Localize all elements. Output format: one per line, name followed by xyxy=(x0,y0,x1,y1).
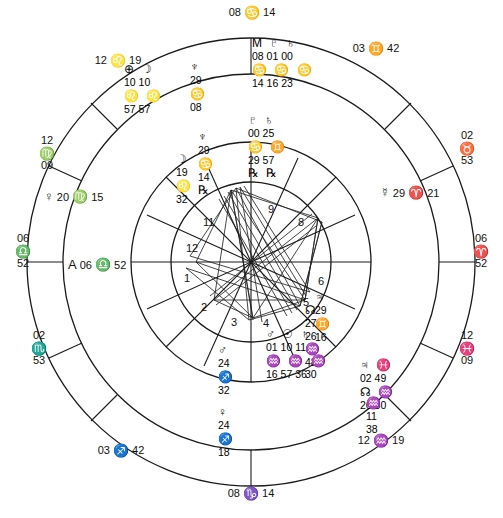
glyph-row: M ♇ ♄ xyxy=(252,36,314,50)
cusp-degree: 02 xyxy=(24,330,54,342)
cusp-label: 08 ♋ 14 xyxy=(222,6,282,20)
cusp-degree: 02 xyxy=(452,130,482,142)
mercury-icon: ☿ xyxy=(380,185,390,200)
value-row: 19 xyxy=(176,166,193,178)
moon-cluster: ☽19♌32 xyxy=(176,152,193,205)
cusp-label: 06 ♈ 52 xyxy=(466,233,496,270)
cusp-degree: 06 xyxy=(466,233,496,245)
planet-degree: 20 xyxy=(57,191,69,203)
glyph-row: ⊕ ☽ xyxy=(124,62,163,76)
glyph-row: ♋ ♊ xyxy=(248,140,287,154)
value-row: 29 57 xyxy=(248,154,287,166)
cusp-minute: 52 xyxy=(8,258,38,270)
cusp-degree: 12 xyxy=(30,135,64,147)
planet-sign-icon: ♍ xyxy=(72,189,88,204)
glyph-row: ♋ xyxy=(198,157,215,171)
glyph-row: ♆ xyxy=(190,60,207,74)
value-row: 11 xyxy=(366,410,383,422)
glyph-row: ♒ xyxy=(366,396,383,410)
planet-sign-icon: ♈ xyxy=(408,185,424,200)
value-row: 24 xyxy=(218,357,235,369)
value-row: 00 25 xyxy=(248,127,287,139)
mars-sagittarius-cluster: ♂24♐32 xyxy=(218,343,235,396)
cusp-sign-icon: ♎ xyxy=(8,245,38,259)
glyph-row: ♌ ♌ xyxy=(124,89,163,103)
planet-degree: 06 xyxy=(80,259,92,271)
house-number: 3 xyxy=(231,316,237,328)
planet-sign-icon: ♎ xyxy=(95,257,111,272)
cusp-label: 03 ♐ 42 xyxy=(91,444,151,458)
value-row: 24 xyxy=(218,419,235,431)
cusp-degree: 12 xyxy=(452,330,482,342)
glyph-row: ♀ xyxy=(218,405,235,419)
value-row: 32 xyxy=(176,193,193,205)
neptune-cluster: ♆29♋08 xyxy=(190,60,207,113)
cusp-minute: 19 xyxy=(392,434,404,446)
planet-label-venus: ♀ 20 ♍ 15 xyxy=(44,190,103,204)
value-row: 14 16 23 xyxy=(252,77,314,89)
value-row: 10 10 xyxy=(124,76,163,88)
pluto-saturn-cluster: ♇ ♄00 25♋ ♊29 57℞ ℞ xyxy=(248,113,287,180)
cusp-sign-icon: ♑ xyxy=(243,486,259,501)
value-row: 29 xyxy=(190,74,207,86)
cusp-sign-icon: ♋ xyxy=(244,5,260,20)
value-row: 01 10 11 xyxy=(266,341,328,353)
glyph-row: ♐ xyxy=(218,432,235,446)
cusp-label: 12 ♒ 19 xyxy=(351,434,411,448)
ascendant-icon: A xyxy=(68,257,77,272)
planet-minute: 21 xyxy=(427,187,439,199)
value-row: 38 xyxy=(366,423,383,435)
cusp-sign-icon: ♓ xyxy=(452,342,482,356)
aquarius-lower-cluster: ♒1138 xyxy=(366,396,383,435)
value-row: 29 xyxy=(198,144,215,156)
house-number: 12 xyxy=(186,242,198,254)
cusp-minute: 42 xyxy=(387,42,399,54)
glyph-row: ♋ ♋ ♋ xyxy=(252,63,314,77)
glyph-row: ℞ ℞ xyxy=(248,166,287,180)
glyph-row: ♐ xyxy=(218,370,235,384)
planet-minute: 15 xyxy=(91,191,103,203)
planet-degree: 29 xyxy=(393,187,405,199)
cusp-sign-icon: ♊ xyxy=(368,41,384,56)
planet-minute: 52 xyxy=(114,259,126,271)
cusp-minute: 53 xyxy=(452,155,482,167)
glyph-row: ☽ xyxy=(176,152,193,166)
value-row: 14 xyxy=(198,171,215,183)
sun-mars-cluster: ♂ ☉ ♄01 10 11♒ ♒ ♒16 57 36 xyxy=(266,327,328,380)
cusp-degree: 12 xyxy=(95,54,107,66)
glyph-row: ☊ xyxy=(305,303,322,317)
house-number: 6 xyxy=(318,275,324,287)
cusp-degree: 08 xyxy=(229,6,241,18)
cusp-degree: 03 xyxy=(353,42,365,54)
cusp-degree: 08 xyxy=(228,487,240,499)
value-row: 57 57 xyxy=(124,103,163,115)
glyph-row: ♇ ♄ xyxy=(248,113,287,127)
value-row: 08 01 00 xyxy=(252,50,314,62)
glyph-row: ♌ xyxy=(176,179,193,193)
cusp-minute: 09 xyxy=(30,160,64,172)
cusp-label: 02 ♉ 53 xyxy=(452,130,482,167)
cusp-minute: 14 xyxy=(262,487,274,499)
value-row: 16 57 36 xyxy=(266,368,328,380)
venus-sagittarius-cluster: ♀24♐18 xyxy=(218,405,235,458)
glyph-row: ℞ xyxy=(198,183,215,197)
glyph-row: ♒ ♒ ♒ xyxy=(266,354,328,368)
cusp-sign-icon: ♍ xyxy=(30,147,64,161)
cusp-minute: 14 xyxy=(263,6,275,18)
glyph-row: ♃ ♓ xyxy=(360,358,395,372)
cusp-label: 02 ♏ 53 xyxy=(24,330,54,367)
cusp-minute: 42 xyxy=(132,444,144,456)
glyph-row: ♂ ☉ ♄ xyxy=(266,327,328,341)
cusp-sign-icon: ♒ xyxy=(373,433,389,448)
upper-left-cluster: ⊕ ☽10 10♌ ♌57 57 xyxy=(124,62,163,115)
cusp-sign-icon: ♐ xyxy=(113,443,129,458)
cusp-minute: 52 xyxy=(466,258,496,270)
planet-label-mercury: ☿ 29 ♈ 21 xyxy=(380,186,439,200)
house-number: 8 xyxy=(298,216,304,228)
house-number: 2 xyxy=(201,301,207,313)
glyph-row: ♋ xyxy=(190,87,207,101)
mc-cluster: M ♇ ♄08 01 00♋ ♋ ♋14 16 23 xyxy=(252,36,314,89)
cusp-label: 12 ♍ 09 xyxy=(30,135,64,172)
cusp-degree: 03 xyxy=(98,444,110,456)
cusp-degree: 12 xyxy=(358,434,370,446)
